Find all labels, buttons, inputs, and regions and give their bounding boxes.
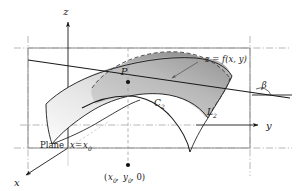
base-point-paren-open: ( — [104, 172, 107, 182]
angle-beta-marker — [252, 88, 292, 95]
surface-equation-label: z = f(x, y) — [204, 54, 247, 64]
tangent-l2-subscript: 2 — [212, 112, 217, 119]
curve-c2-label: C 2 — [154, 98, 165, 110]
point-p-label: P — [120, 66, 128, 77]
base-point-dot — [126, 163, 130, 167]
y-axis-label: y — [265, 120, 272, 131]
plane-label-word: Plane — [40, 140, 64, 150]
figure-container: z y x P z = f(x, y) C 2 L 2 β Plane x = … — [0, 0, 300, 191]
x-axis — [26, 148, 68, 175]
tangent-l2-letter: L — [206, 107, 213, 117]
x-axis-label: x — [14, 177, 20, 188]
base-point-comma-2: , 0) — [131, 172, 145, 182]
plane-label-x0-subscript: 0 — [88, 145, 92, 152]
surface-right-lower-edge — [190, 118, 208, 152]
plane-label-equals: = — [75, 140, 82, 150]
point-p-dot — [126, 80, 130, 84]
base-point-comma-1: , — [116, 172, 119, 182]
curve-c2-subscript: 2 — [160, 103, 165, 110]
base-point-label: ( x 0 , y 0 , 0) — [104, 172, 145, 184]
plane-label: Plane x = x 0 — [40, 140, 92, 152]
partial-derivative-diagram: z y x P z = f(x, y) C 2 L 2 β Plane x = … — [0, 0, 300, 191]
curve-c2-letter: C — [154, 98, 161, 108]
angle-beta-label: β — [260, 80, 266, 90]
z-axis-label: z — [62, 6, 69, 17]
